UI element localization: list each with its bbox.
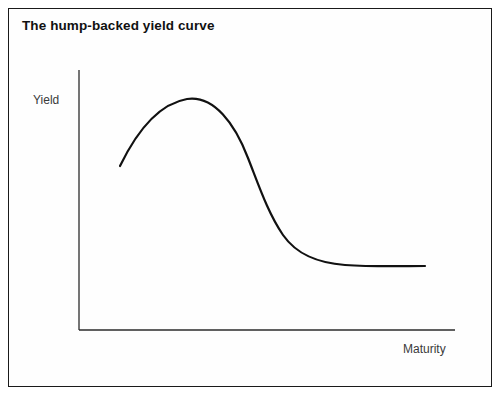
x-axis-label: Maturity: [403, 342, 446, 356]
plot-area: [0, 0, 501, 396]
y-axis-label: Yield: [33, 93, 59, 107]
yield-curve-path: [120, 99, 425, 267]
yield-curve-figure: The hump-backed yield curve Yield Maturi…: [0, 0, 501, 396]
